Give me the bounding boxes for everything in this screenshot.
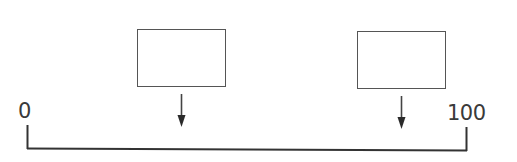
arrow-2 — [398, 96, 406, 129]
arrowhead-icon — [398, 117, 406, 129]
arrowhead-icon — [178, 115, 186, 127]
start-label: 0 — [18, 101, 31, 122]
number-line-diagram: 0 100 — [0, 0, 517, 162]
answer-box-1[interactable] — [137, 29, 226, 87]
end-label: 100 — [447, 103, 486, 124]
baseline — [27, 149, 467, 151]
answer-box-2[interactable] — [357, 31, 446, 89]
arrow-1 — [178, 94, 186, 127]
number-line — [27, 125, 467, 151]
